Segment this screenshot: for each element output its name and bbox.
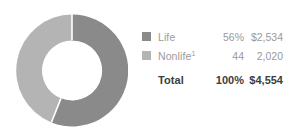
footnote-marker: 1	[191, 49, 195, 56]
legend-label-life: Life	[158, 31, 211, 43]
legend-table: Life 56% $2,534 Nonlife1 44 2,020 Total …	[142, 27, 285, 87]
legend-percent-life: 56%	[211, 31, 244, 43]
legend-row-nonlife[interactable]: Nonlife1 44 2,020	[142, 46, 285, 65]
donut-chart	[16, 6, 128, 135]
legend-row-life[interactable]: Life 56% $2,534	[142, 27, 285, 46]
legend-label-nonlife: Nonlife1	[158, 50, 211, 62]
legend-swatch-nonlife	[142, 51, 151, 60]
legend-row-total: Total 100% $4,554	[142, 65, 285, 87]
donut-chart-svg	[16, 6, 128, 135]
legend-label-nonlife-text: Nonlife	[158, 50, 191, 62]
donut-chart-figure: Life 56% $2,534 Nonlife1 44 2,020 Total …	[0, 0, 287, 139]
legend-value-nonlife: 2,020	[244, 50, 285, 62]
donut-hole	[42, 41, 101, 100]
legend-swatch-nonlife-cell	[142, 51, 158, 60]
legend-percent-total: 100%	[211, 74, 244, 86]
legend-value-total: $4,554	[244, 74, 285, 86]
legend-swatch-life	[142, 32, 151, 41]
legend-value-life: $2,534	[244, 31, 285, 43]
legend-label-total: Total	[158, 74, 211, 86]
legend-swatch-life-cell	[142, 32, 158, 41]
legend-percent-nonlife: 44	[211, 50, 244, 62]
